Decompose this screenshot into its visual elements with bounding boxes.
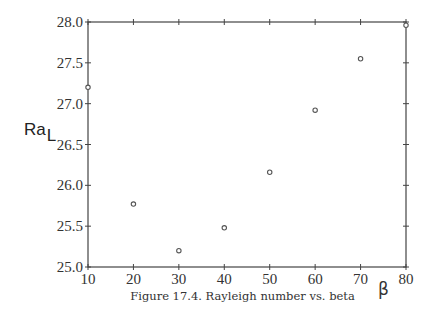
figure-caption: Figure 17.4. Rayleigh number vs. beta (0, 289, 427, 303)
x-tick-label: 50 (262, 271, 277, 287)
y-axis-label: RaL (24, 120, 56, 145)
y-tick-label: 26.5 (57, 137, 83, 153)
x-axis-ticks: 1020304050607080 (81, 19, 414, 287)
y-tick-label: 28.0 (57, 14, 83, 30)
data-points (86, 23, 408, 253)
data-point-marker (177, 248, 181, 252)
y-tick-label: 25.0 (57, 259, 83, 275)
y-axis-label-subscript: L (47, 126, 56, 145)
data-point-marker (268, 170, 272, 174)
x-tick-label: 20 (126, 271, 141, 287)
x-tick-label: 40 (217, 271, 232, 287)
x-tick-label: 30 (171, 271, 186, 287)
data-point-marker (313, 108, 317, 112)
data-point-marker (404, 23, 408, 27)
x-tick-label: 80 (399, 271, 414, 287)
scatter-chart: 25.025.526.026.527.027.528.0 10203040506… (0, 0, 427, 314)
x-tick-label: 70 (353, 271, 368, 287)
data-point-marker (358, 57, 362, 61)
data-point-marker (131, 202, 135, 206)
y-axis-label-main: Ra (24, 120, 46, 139)
y-tick-label: 27.5 (57, 55, 83, 71)
data-point-marker (86, 85, 90, 89)
data-point-marker (222, 226, 226, 230)
x-tick-label: 10 (81, 271, 96, 287)
x-tick-label: 60 (308, 271, 323, 287)
y-tick-label: 26.0 (57, 177, 83, 193)
y-axis-ticks: 25.025.526.026.527.027.528.0 (57, 14, 409, 275)
y-tick-label: 25.5 (57, 218, 83, 234)
y-tick-label: 27.0 (57, 96, 83, 112)
